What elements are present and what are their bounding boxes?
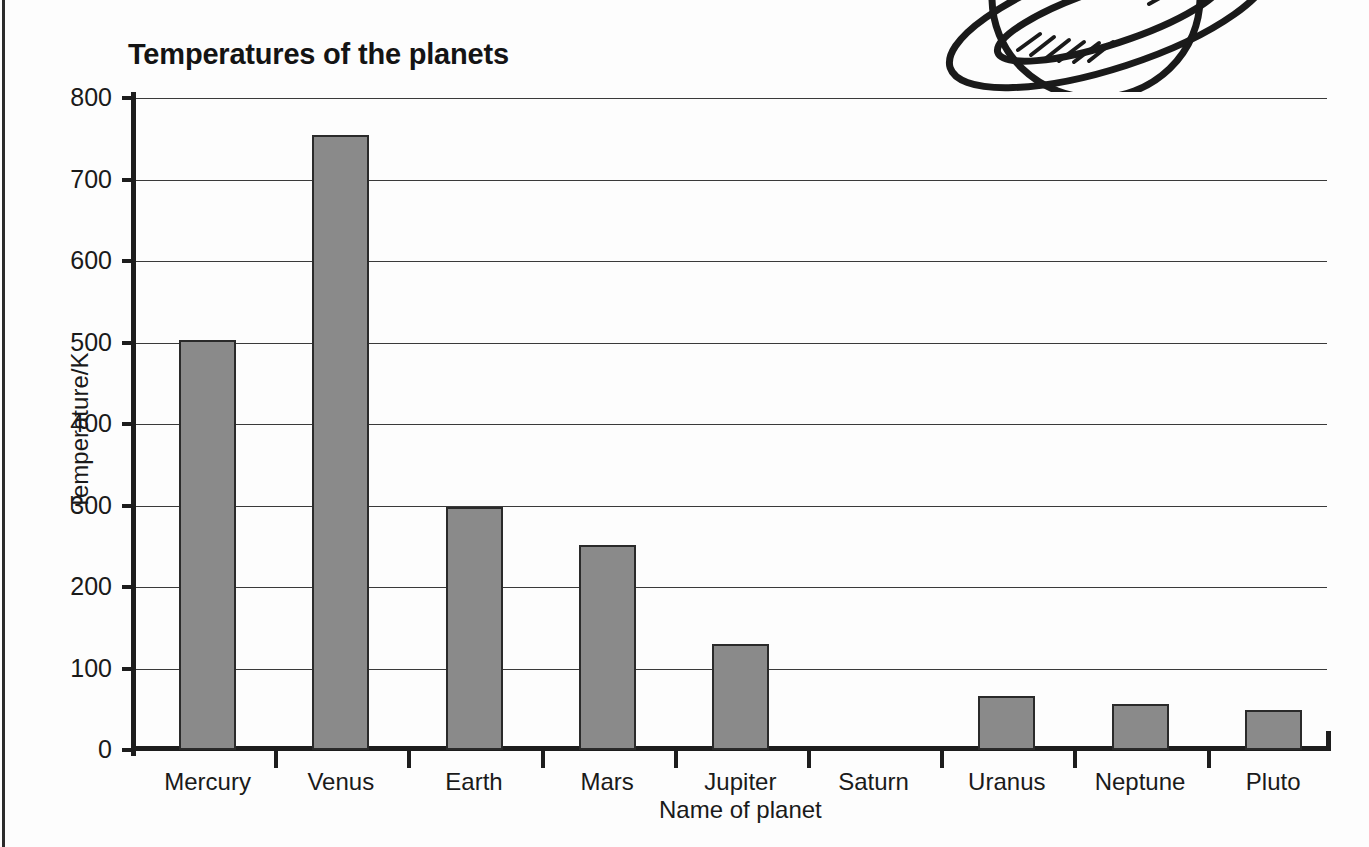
chart-page: Temperatures of the planets Temperature/… [0, 0, 1369, 847]
bar [978, 696, 1035, 750]
x-axis-tick [1073, 751, 1077, 768]
x-axis-tick [940, 751, 944, 768]
x-axis-tick [407, 751, 411, 768]
gridline [134, 98, 1327, 99]
x-axis-end-tick [1326, 731, 1331, 751]
y-axis-tick [122, 96, 136, 100]
y-axis-tick [122, 748, 136, 752]
bar [579, 545, 636, 750]
x-axis-title: Name of planet [560, 796, 920, 824]
x-axis-tick [541, 751, 545, 768]
y-axis-tick-label: 800 [20, 83, 112, 112]
bar [179, 340, 236, 750]
saturn-planet-icon [900, 0, 1300, 92]
y-axis-tick-label: 100 [20, 654, 112, 683]
y-axis-tick-label: 600 [20, 246, 112, 275]
x-axis-tick [674, 751, 678, 768]
x-axis-tick [1207, 751, 1211, 768]
y-axis-tick [122, 341, 136, 345]
y-axis-tick-label: 200 [20, 572, 112, 601]
page-border-left [2, 0, 5, 847]
bar [712, 644, 769, 750]
y-axis-tick-label: 400 [20, 409, 112, 438]
y-axis-tick [122, 585, 136, 589]
bar [446, 507, 503, 750]
chart-title: Temperatures of the planets [128, 38, 509, 71]
y-axis-tick [122, 178, 136, 182]
bar [1112, 704, 1169, 750]
x-axis-tick-label: Pluto [1183, 768, 1363, 796]
bar [1245, 710, 1302, 750]
x-axis-tick [274, 751, 278, 768]
y-axis-tick-label: 300 [20, 491, 112, 520]
y-axis-tick-label: 700 [20, 165, 112, 194]
y-axis-tick [122, 504, 136, 508]
y-axis-tick-label: 0 [20, 735, 112, 764]
y-axis-tick [122, 259, 136, 263]
y-axis-tick [122, 422, 136, 426]
x-axis-tick [807, 751, 811, 768]
y-axis-tick [122, 667, 136, 671]
y-axis-tick-label: 500 [20, 328, 112, 357]
bar [312, 135, 369, 750]
